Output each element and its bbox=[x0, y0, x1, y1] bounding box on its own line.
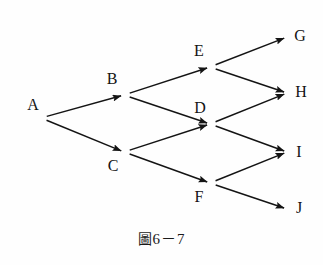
edge-c-to-f bbox=[130, 154, 208, 182]
node-label-g: G bbox=[294, 28, 306, 44]
figure-caption-prefix: 圖 bbox=[138, 231, 153, 247]
figure-caption: 圖6－7 bbox=[0, 230, 323, 248]
edge-e-to-h bbox=[216, 69, 284, 92]
edge-a-to-c bbox=[47, 120, 122, 151]
directed-graph-canvas bbox=[0, 0, 323, 265]
node-label-j: J bbox=[296, 200, 302, 216]
edge-f-to-i bbox=[216, 153, 285, 181]
node-label-f: F bbox=[195, 189, 204, 205]
edge-f-to-j bbox=[216, 185, 284, 208]
node-label-c: C bbox=[108, 158, 119, 174]
edge-d-to-h bbox=[216, 94, 285, 122]
figure-caption-number: 6－7 bbox=[153, 231, 186, 247]
edge-layer bbox=[47, 38, 285, 208]
edge-e-to-g bbox=[216, 38, 285, 65]
node-label-e: E bbox=[194, 43, 204, 59]
edge-a-to-b bbox=[47, 96, 121, 117]
figure-container: ABCDEFGHIJ 圖6－7 bbox=[0, 0, 323, 265]
edge-b-to-e bbox=[130, 68, 207, 93]
edge-d-to-i bbox=[216, 126, 285, 151]
node-label-h: H bbox=[295, 84, 307, 100]
node-label-a: A bbox=[27, 97, 39, 113]
node-label-b: B bbox=[107, 71, 118, 87]
node-label-i: I bbox=[296, 144, 301, 160]
node-label-d: D bbox=[194, 100, 206, 116]
edge-c-to-d bbox=[130, 125, 207, 150]
